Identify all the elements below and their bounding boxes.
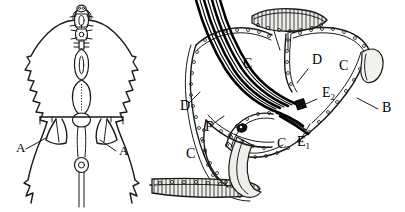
label-C-lower-mid: C (277, 136, 286, 151)
label-F-left: F (205, 119, 213, 134)
label-D-left: D (180, 98, 190, 113)
figure-root: A A C C C C D D B F E1 E2 (0, 0, 405, 212)
label-B-right: B (382, 100, 391, 115)
label-E2: E2 (322, 85, 335, 102)
label-left-A: A (16, 140, 26, 155)
label-right-A: A (119, 143, 129, 158)
label-D-upper: D (312, 52, 322, 67)
label-C-lower-left: C (186, 146, 195, 161)
label-layer: A A C C C C D D B F E1 E2 (0, 0, 405, 212)
label-C-upper-left: C (243, 56, 252, 71)
label-C-upper-right: C (339, 58, 348, 73)
label-E1: E1 (297, 134, 310, 151)
